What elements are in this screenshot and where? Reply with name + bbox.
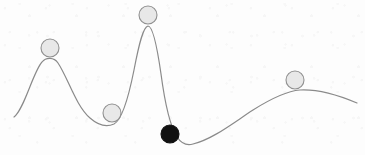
energy-landscape-figure <box>0 0 365 155</box>
energy-landscape-curve <box>14 26 357 145</box>
ball-on-tall-peak <box>139 6 157 24</box>
curve-layer <box>14 26 357 145</box>
ball-on-left-peak <box>41 39 59 57</box>
balls-layer <box>41 6 304 143</box>
ball-in-shallow-valley <box>103 104 121 122</box>
ball-on-right-hump <box>286 71 304 89</box>
diagram-canvas <box>0 0 365 155</box>
ball-in-deep-valley <box>161 125 179 143</box>
